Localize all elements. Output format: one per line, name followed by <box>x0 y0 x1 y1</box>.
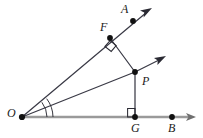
point-B-dot <box>169 114 175 120</box>
ray-P-parallel-arrowhead <box>154 56 166 65</box>
point-label-B: B <box>168 122 175 134</box>
point-label-F: F <box>100 21 107 33</box>
diagram-canvas: O F A P G B <box>0 0 203 138</box>
point-label-P: P <box>142 75 149 87</box>
angle-arc-outer <box>47 99 53 117</box>
point-label-O: O <box>7 107 16 119</box>
point-dots <box>19 18 175 120</box>
ray-OA <box>22 8 152 117</box>
ray-P-parallel <box>135 56 166 72</box>
ray-P-parallel-line <box>135 59 161 72</box>
point-label-G: G <box>131 122 140 134</box>
segment-OP-line <box>22 72 135 117</box>
point-A-dot <box>130 18 136 24</box>
point-P-dot <box>132 69 138 75</box>
point-F-dot <box>107 35 113 41</box>
point-O-dot <box>19 114 25 120</box>
point-label-A: A <box>121 3 128 15</box>
angle-arc-inner <box>42 102 47 117</box>
point-G-dot <box>132 114 138 120</box>
segment-OP <box>22 72 135 117</box>
ray-OA-line <box>22 12 147 117</box>
